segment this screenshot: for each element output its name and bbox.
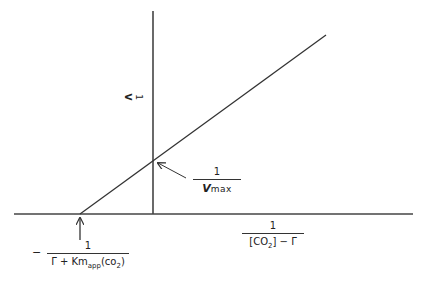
x-axis-label: 1 [CO2] − Γ [242, 221, 304, 250]
vmax-v: V [202, 182, 211, 195]
km-app-subscript: app [88, 262, 101, 270]
diagram-canvas: 1 V 1 Vmax 1 [CO2] − Γ − 1 Γ + Kmapp(co2… [0, 0, 424, 286]
km-co: (co [101, 256, 117, 267]
x-label-minus-gamma: ] − Γ [273, 236, 297, 247]
km-gamma-plus-km: Γ + Km [51, 256, 88, 267]
vmax-arrow-icon [158, 163, 186, 178]
km-denominator: Γ + Kmapp(co2) [51, 254, 125, 270]
vmax-subscript: max [211, 184, 232, 194]
y-label-numerator: 1 [133, 94, 143, 100]
x-label-co: [CO [249, 236, 268, 247]
x-intercept-minus-sign: − [32, 246, 41, 259]
y-label-denominator: V [123, 94, 133, 101]
vmax-numerator: 1 [214, 167, 220, 179]
km-close-paren: ) [121, 256, 125, 267]
x-intercept-label: 1 Γ + Kmapp(co2) [47, 241, 129, 270]
x-label-numerator: 1 [270, 221, 276, 233]
vmax-denominator: Vmax [202, 180, 232, 194]
y-intercept-label: 1 Vmax [193, 167, 241, 194]
km-numerator: 1 [85, 241, 91, 253]
x-label-denominator: [CO2] − Γ [249, 234, 296, 250]
y-axis-label: 1 V [123, 82, 143, 112]
